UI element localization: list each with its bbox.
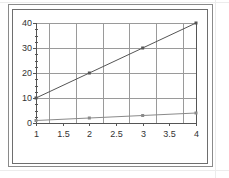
data-point-marker[interactable] (35, 97, 38, 100)
data-point-marker[interactable] (88, 117, 91, 120)
y-tick-label: 20 (22, 68, 32, 78)
y-tick-label: 30 (22, 43, 32, 53)
x-tick-label: 2.5 (110, 129, 123, 139)
y-tick-label: 10 (22, 93, 32, 103)
data-point-marker[interactable] (35, 119, 38, 122)
y-tick-label: 0 (27, 118, 32, 128)
x-tick-label: 1.5 (57, 129, 70, 139)
x-tick-label: 1 (34, 129, 39, 139)
data-point-marker[interactable] (88, 72, 91, 75)
data-point-marker[interactable] (141, 47, 144, 50)
data-point-marker[interactable] (141, 114, 144, 117)
x-tick-label: 3.5 (163, 129, 176, 139)
x-tick-label: 3 (141, 129, 146, 139)
x-tick-label: 2 (87, 129, 92, 139)
data-point-marker[interactable] (195, 112, 198, 115)
y-tick-label: 40 (22, 18, 32, 28)
line-chart[interactable]: 11.522.533.54010203040 (0, 0, 229, 178)
x-tick-label: 4 (194, 129, 199, 139)
data-point-marker[interactable] (195, 22, 198, 25)
